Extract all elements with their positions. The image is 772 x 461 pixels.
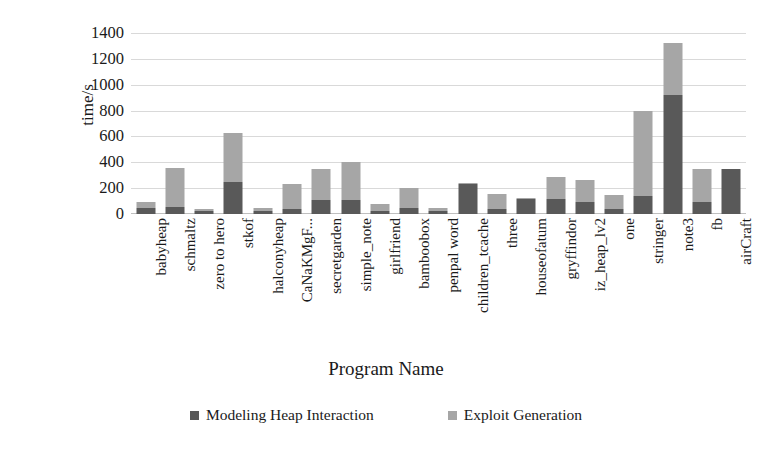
bar-stack[interactable] [605, 195, 624, 214]
bar-segment [663, 43, 682, 95]
x-label-slot: stkof [219, 214, 248, 349]
bar-segment [341, 162, 360, 200]
x-axis-tick-labels: babyheapschmaltzzero to herostkofhalcony… [131, 214, 746, 349]
x-tick-label: airCraft [739, 218, 754, 265]
bar-slot [482, 33, 511, 214]
bar-slot [219, 33, 248, 214]
bar-segment [312, 169, 331, 199]
x-label-slot: iz_heap_lv2 [570, 214, 599, 349]
bar-segment [517, 199, 536, 215]
bar-stack[interactable] [517, 198, 536, 215]
bar-stack[interactable] [693, 169, 712, 214]
legend-label: Modeling Heap Interaction [206, 406, 374, 424]
x-label-slot: gryffindor [541, 214, 570, 349]
bar-segment [165, 168, 184, 207]
bar-segment [165, 207, 184, 214]
bar-stack[interactable] [370, 204, 389, 214]
bar-stack[interactable] [341, 162, 360, 214]
bar-stack[interactable] [312, 169, 331, 214]
x-label-slot: schmaltz [160, 214, 189, 349]
y-tick-label: 600 [64, 128, 124, 145]
bar-slot [424, 33, 453, 214]
y-tick-label: 1000 [64, 76, 124, 93]
bar-slot [336, 33, 365, 214]
bar-segment [224, 182, 243, 214]
x-label-slot: one [600, 214, 629, 349]
bar-slot [717, 33, 746, 214]
x-label-slot: CaNaKMgF... [277, 214, 306, 349]
bar-stack[interactable] [136, 202, 155, 214]
x-label-slot: halconyheap [248, 214, 277, 349]
x-label-slot: bamboobox [395, 214, 424, 349]
bar-stack[interactable] [634, 111, 653, 214]
bar-segment [224, 133, 243, 182]
legend-swatch-icon [448, 411, 457, 420]
bar-stack[interactable] [400, 188, 419, 214]
bar-segment [400, 188, 419, 209]
bar-segment [458, 184, 477, 214]
bar-stack[interactable] [165, 168, 184, 214]
bar-segment [634, 111, 653, 196]
legend-label: Exploit Generation [464, 406, 582, 424]
bar-stack[interactable] [283, 184, 302, 214]
x-label-slot: note3 [658, 214, 687, 349]
y-tick-label: 800 [64, 102, 124, 119]
bar-segment [546, 177, 565, 198]
legend-swatch-icon [190, 411, 199, 420]
bar-segment [575, 180, 594, 201]
bar-segment [488, 194, 507, 209]
x-label-slot: stringer [629, 214, 658, 349]
bar-stack[interactable] [722, 169, 741, 214]
bar-slot [190, 33, 219, 214]
bar-segment [693, 202, 712, 214]
legend-item[interactable]: Modeling Heap Interaction [190, 406, 374, 424]
x-label-slot: three [482, 214, 511, 349]
bar-slot [277, 33, 306, 214]
y-tick-label: 400 [64, 154, 124, 171]
legend-item[interactable]: Exploit Generation [448, 406, 582, 424]
x-label-slot: children_tcache [453, 214, 482, 349]
bar-segment [634, 196, 653, 214]
x-label-slot: zero to hero [190, 214, 219, 349]
bar-segment [693, 169, 712, 202]
bar-slot [365, 33, 394, 214]
x-label-slot: airCraft [717, 214, 746, 349]
bar-stack[interactable] [663, 43, 682, 214]
bar-slot [131, 33, 160, 214]
bar-stack[interactable] [546, 177, 565, 214]
chart-legend: Modeling Heap InteractionExploit Generat… [0, 406, 772, 424]
bar-slot [512, 33, 541, 214]
bar-stack[interactable] [224, 133, 243, 214]
y-tick-label: 1400 [64, 25, 124, 42]
bar-stack[interactable] [488, 194, 507, 214]
y-axis-tick-labels: 1400120010008006004002000 [64, 33, 124, 214]
y-tick-label: 1200 [64, 51, 124, 68]
bar-slot [570, 33, 599, 214]
bar-segment [312, 200, 331, 214]
bar-slot [629, 33, 658, 214]
x-label-slot: girlfriend [365, 214, 394, 349]
x-axis-title: Program Name [0, 358, 772, 380]
x-label-slot: penpal word [424, 214, 453, 349]
bar-stack[interactable] [458, 183, 477, 214]
stacked-bar-chart: time/s 1400120010008006004002000 babyhea… [0, 0, 772, 461]
x-label-slot: babyheap [131, 214, 160, 349]
bar-slot [453, 33, 482, 214]
x-label-slot: fb [687, 214, 716, 349]
bar-slot [160, 33, 189, 214]
bar-stack[interactable] [575, 180, 594, 214]
bar-segment [605, 195, 624, 209]
x-label-slot: houseofatum [512, 214, 541, 349]
bar-segment [722, 169, 741, 214]
bar-segment [283, 184, 302, 209]
bar-slot [658, 33, 687, 214]
bar-slot [395, 33, 424, 214]
bars-layer [131, 33, 746, 214]
x-label-slot: simple_note [336, 214, 365, 349]
bar-segment [341, 200, 360, 214]
bar-segment [663, 95, 682, 214]
bar-slot [541, 33, 570, 214]
y-tick-label: 0 [64, 206, 124, 223]
bar-segment [575, 202, 594, 214]
bar-segment [546, 199, 565, 215]
